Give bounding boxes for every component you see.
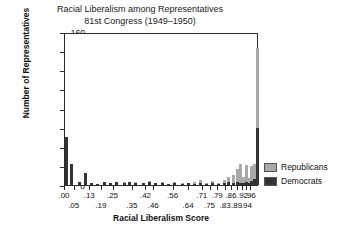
x-tick-label: .19 [88,201,114,210]
legend-swatch-democrats [264,177,277,186]
x-tick-mark [237,186,238,190]
bar-segment-democrats [223,183,226,185]
bar-segment-republicans [173,182,176,183]
bar-segment-democrats [217,184,220,185]
histogram-bar [199,180,202,185]
histogram-bar [223,180,226,185]
histogram-bar [115,182,118,185]
x-tick-mark [101,186,102,190]
histogram-bar [211,181,214,185]
histogram-bar [227,177,230,185]
bar-segment-democrats [84,173,87,185]
histogram-bar [96,184,99,185]
bar-segment-democrats [232,183,235,185]
bar-segment-democrats [142,183,145,185]
x-tick-mark [89,186,90,190]
plot-area [64,33,258,186]
histogram-bar [161,182,164,185]
bar-segment-democrats [148,182,151,185]
legend-label-democrats: Democrats [281,176,322,186]
bar-segment-democrats [161,183,164,185]
x-tick-label: .00 [51,191,77,200]
bar-segment-democrats [96,184,99,185]
bar-segment-democrats [70,164,73,185]
histogram-bar [256,48,259,185]
histogram-bar [90,183,93,185]
chart-subtitle: 81st Congress (1949–1950) [0,16,280,28]
bar-segment-democrats [227,182,230,185]
bar-segment-republicans [227,177,230,182]
x-tick-label: .46 [140,201,166,210]
x-tick-mark [74,186,75,190]
histogram-bar [187,183,190,185]
bar-segment-democrats [211,183,214,185]
bar-segment-republicans [217,183,220,184]
bar-segment-democrats [123,183,126,185]
bar-segment-republicans [211,181,214,183]
histogram-bar [84,173,87,185]
x-tick-mark [217,186,218,190]
chart-legend: Republicans Democrats [264,162,328,190]
histogram-bar [217,183,220,185]
histogram-bar [154,183,157,185]
x-tick-label: .56 [160,191,186,200]
bar-segment-republicans [193,182,196,184]
x-axis-label: Racial Liberalism Score [64,213,258,223]
bar-segment-democrats [256,128,259,185]
x-tick-mark [188,186,189,190]
bar-segment-democrats [199,183,202,185]
x-tick-mark [113,186,114,190]
x-tick-label: .05 [61,201,87,210]
bar-segment-democrats [90,183,93,185]
histogram-bar [205,183,208,185]
chart-figure: Racial Liberalism among Representatives … [0,0,346,240]
x-tick-mark [145,186,146,190]
bar-segment-democrats [167,184,170,185]
chart-title-block: Racial Liberalism among Representatives … [0,4,280,27]
legend-label-republicans: Republicans [281,162,328,172]
histogram-bar [232,175,235,185]
histogram-bar [109,183,112,185]
histogram-bar [134,182,137,185]
chart-title: Racial Liberalism among Representatives [0,4,280,16]
x-tick-mark [64,186,65,190]
bar-segment-democrats [205,184,208,185]
x-tick-label: .25 [100,191,126,200]
bar-segment-democrats [65,137,68,185]
bar-segment-republicans [123,182,126,183]
bar-segment-republicans [148,181,151,182]
bar-segment-republicans [181,183,184,184]
x-tick-mark [132,186,133,190]
bar-segment-democrats [181,184,184,185]
bar-segment-democrats [115,182,118,185]
x-tick-label: .96 [237,191,263,200]
bar-segment-democrats [193,184,196,185]
bar-segment-republicans [161,182,164,183]
bar-segment-democrats [109,183,112,185]
bar-segment-republicans [223,180,226,183]
histogram-bar [65,137,68,185]
x-tick-mark [173,186,174,190]
x-tick-mark [231,186,232,190]
bar-segment-republicans [256,48,259,127]
x-tick-mark [246,186,247,190]
bar-segment-democrats [173,183,176,185]
x-tick-mark [242,186,243,190]
bar-segment-democrats [187,183,190,185]
histogram-bar [70,164,73,185]
bar-segment-republicans [205,183,208,184]
bars-container [65,34,257,185]
legend-swatch-republicans [264,163,277,172]
x-tick-mark [153,186,154,190]
histogram-bar [167,184,170,185]
histogram-bar [78,182,81,185]
bar-segment-republicans [199,180,202,183]
bar-segment-democrats [128,182,131,185]
histogram-bar [103,182,106,185]
x-tick-label: .42 [132,191,158,200]
x-tick-label: .94 [233,201,259,210]
bar-segment-republicans [232,175,235,183]
x-tick-mark [202,186,203,190]
histogram-bar [193,182,196,185]
x-tick-mark [250,186,251,190]
